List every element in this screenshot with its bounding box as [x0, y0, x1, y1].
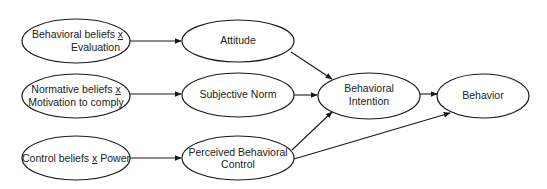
tpb-diagram: Behavioral beliefs x Evaluation Normativ… [0, 0, 547, 189]
node-behavior: Behavior [437, 74, 529, 118]
edge-pbc-to-intention [292, 112, 332, 150]
node-subjective-norm: Subjective Norm [182, 73, 294, 117]
node-control-beliefs: Control beliefs x Power [22, 136, 130, 180]
diagram-svg: Behavioral beliefs x Evaluation Normativ… [0, 0, 547, 189]
node-label: Evaluation [71, 41, 120, 53]
node-perceived-behavioral-control: Perceived Behavioral Control [182, 136, 294, 180]
node-label: Behavioral [344, 82, 394, 94]
node-behavioral-beliefs: Behavioral beliefs x Evaluation [22, 19, 130, 63]
node-label: Perceived Behavioral [188, 146, 287, 158]
node-attitude: Attitude [182, 20, 294, 62]
node-label: Behavioral beliefs x [32, 28, 124, 40]
node-behavioral-intention: Behavioral Intention [318, 73, 420, 119]
node-label: Behavior [462, 89, 504, 101]
node-label: Normative beliefs x [31, 83, 121, 95]
node-label: Control [221, 158, 255, 170]
node-label: Attitude [220, 34, 256, 46]
node-label: Control beliefs x Power [22, 152, 130, 164]
node-label: Intention [349, 95, 389, 107]
edge-attitude-to-intention [291, 52, 332, 79]
edge-pbc-to-behavior [294, 113, 450, 159]
node-normative-beliefs: Normative beliefs x Motivation to comply [22, 74, 130, 118]
node-label: Subjective Norm [199, 88, 276, 100]
node-label: Motivation to comply [28, 96, 124, 108]
